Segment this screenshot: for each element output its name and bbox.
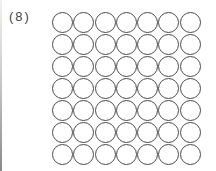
- circle-icon: [73, 34, 94, 55]
- circle-icon: [180, 12, 201, 33]
- circle-icon: [95, 12, 116, 33]
- circle-icon: [158, 12, 179, 33]
- circle-icon: [180, 78, 201, 99]
- circle-icon: [52, 56, 73, 77]
- circle-icon: [137, 78, 158, 99]
- circle-icon: [73, 122, 94, 143]
- circle-icon: [52, 144, 73, 165]
- circle-icon: [52, 100, 73, 121]
- circle-icon: [116, 12, 137, 33]
- circle-icon: [52, 122, 73, 143]
- circle-icon: [116, 144, 137, 165]
- circle-icon: [158, 100, 179, 121]
- circle-icon: [116, 56, 137, 77]
- circle-icon: [137, 12, 158, 33]
- circle-icon: [52, 34, 73, 55]
- circle-icon: [137, 122, 158, 143]
- circle-icon: [137, 34, 158, 55]
- circle-icon: [95, 56, 116, 77]
- circle-icon: [137, 56, 158, 77]
- circle-icon: [95, 122, 116, 143]
- circle-icon: [95, 100, 116, 121]
- left-border-rule: [0, 0, 2, 171]
- circle-icon: [95, 78, 116, 99]
- circle-icon: [73, 100, 94, 121]
- circle-grid: [52, 11, 201, 165]
- circle-icon: [116, 122, 137, 143]
- circle-icon: [158, 56, 179, 77]
- circle-icon: [158, 122, 179, 143]
- circle-icon: [95, 34, 116, 55]
- circle-icon: [180, 100, 201, 121]
- circle-icon: [73, 144, 94, 165]
- circle-icon: [95, 144, 116, 165]
- circle-icon: [180, 56, 201, 77]
- circle-icon: [180, 34, 201, 55]
- circle-icon: [137, 100, 158, 121]
- circle-icon: [158, 78, 179, 99]
- circle-icon: [52, 12, 73, 33]
- circle-icon: [180, 144, 201, 165]
- circle-icon: [73, 78, 94, 99]
- circle-icon: [116, 34, 137, 55]
- circle-icon: [180, 122, 201, 143]
- circle-icon: [158, 144, 179, 165]
- circle-icon: [52, 78, 73, 99]
- circle-icon: [116, 78, 137, 99]
- circle-icon: [73, 56, 94, 77]
- problem-number-label: (8): [9, 9, 31, 24]
- circle-icon: [137, 144, 158, 165]
- circle-icon: [158, 34, 179, 55]
- circle-icon: [116, 100, 137, 121]
- circle-icon: [73, 12, 94, 33]
